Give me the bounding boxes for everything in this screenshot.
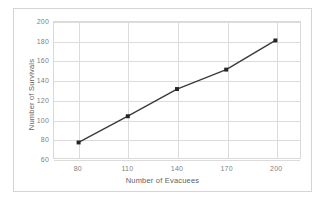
x-axis-title: Number of Evacuees (14, 176, 311, 185)
x-axis-tick-label: 200 (270, 165, 282, 172)
x-axis-tick-label: 170 (220, 165, 232, 172)
y-axis-tick-label: 200 (18, 18, 49, 25)
data-point-marker (175, 87, 179, 91)
x-axis-tick-label: 110 (122, 165, 134, 172)
data-point-marker (273, 38, 277, 42)
data-point-marker (224, 68, 228, 72)
chart-container: 6080100120140160180200 Number of Surviva… (13, 8, 312, 192)
line-series (54, 22, 300, 158)
data-point-marker (77, 140, 81, 144)
series-polyline (79, 40, 276, 142)
series-markers (77, 38, 278, 144)
plot-area (53, 21, 301, 159)
x-axis-tick-label: 80 (74, 165, 82, 172)
x-axis-tick-label: 140 (171, 165, 183, 172)
y-axis-tick-label: 180 (18, 37, 49, 44)
y-axis-tick-label: 60 (18, 156, 49, 163)
data-point-marker (126, 114, 130, 118)
gridline-horizontal (54, 160, 300, 161)
y-axis-title: Number of Survivals (27, 47, 36, 143)
